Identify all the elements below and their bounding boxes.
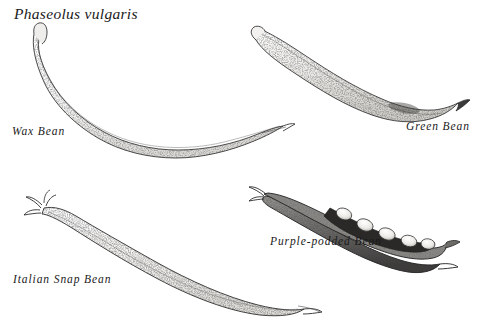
botanical-plate: Phaseolus vulgaris Wax Bean Green Bean I… xyxy=(0,0,484,331)
label-wax-bean: Wax Bean xyxy=(12,126,65,138)
label-purple-podded-bean: Purple-podded Bean xyxy=(270,236,382,248)
label-italian-snap-bean: Italian Snap Bean xyxy=(13,274,111,286)
specimen-purple-podded-bean xyxy=(249,187,460,273)
species-title: Phaseolus vulgaris xyxy=(14,6,138,22)
specimen-wax-bean xyxy=(33,23,295,158)
label-green-bean: Green Bean xyxy=(406,121,470,133)
specimen-green-bean xyxy=(251,26,470,122)
